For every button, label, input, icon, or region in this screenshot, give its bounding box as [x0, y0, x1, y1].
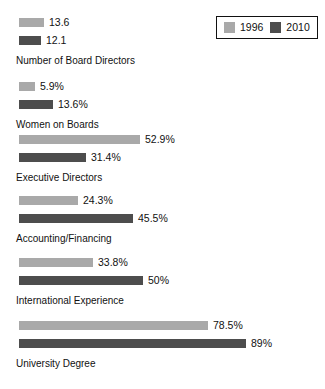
bar-group: 5.9%13.6%Women on Boards — [0, 82, 325, 131]
bar-value-label: 31.4% — [91, 151, 121, 164]
bar-row: 13.6% — [0, 100, 325, 109]
bar-value-label: 24.3% — [83, 194, 113, 207]
category-label: University Degree — [16, 357, 325, 370]
bar-1996 — [19, 82, 35, 91]
bar-row: 5.9% — [0, 82, 325, 91]
category-label: Accounting/Financing — [16, 232, 325, 245]
bar-1996 — [19, 321, 208, 330]
bar-row: 33.8% — [0, 258, 325, 267]
bar-1996 — [19, 196, 78, 205]
bar-1996 — [19, 258, 93, 267]
bar-1996 — [19, 135, 140, 144]
bar-2010 — [19, 276, 143, 285]
bar-row: 50% — [0, 276, 325, 285]
bar-value-label: 50% — [148, 274, 169, 287]
bar-value-label: 13.6 — [49, 16, 69, 29]
bar-1996 — [19, 18, 44, 27]
bar-group: 13.612.1Number of Board Directors — [0, 18, 325, 67]
bar-row: 24.3% — [0, 196, 325, 205]
bar-value-label: 12.1 — [46, 34, 66, 47]
bar-2010 — [19, 214, 133, 223]
bar-value-label: 33.8% — [98, 256, 128, 269]
bar-row: 12.1 — [0, 36, 325, 45]
bar-value-label: 52.9% — [145, 133, 175, 146]
bar-group: 52.9%31.4%Executive Directors — [0, 135, 325, 184]
bar-group: 33.8%50%International Experience — [0, 258, 325, 307]
bar-group: 78.5%89%University Degree — [0, 321, 325, 370]
bar-row: 89% — [0, 339, 325, 348]
category-label: Executive Directors — [16, 171, 325, 184]
bar-group: 24.3%45.5%Accounting/Financing — [0, 196, 325, 245]
category-label: International Experience — [16, 294, 325, 307]
bar-2010 — [19, 153, 86, 162]
bar-value-label: 89% — [251, 337, 272, 350]
grouped-bar-chart: 1996 2010 13.612.1Number of Board Direct… — [0, 0, 325, 389]
bar-2010 — [19, 36, 41, 45]
bar-value-label: 13.6% — [58, 98, 88, 111]
bar-row: 45.5% — [0, 214, 325, 223]
bar-row: 78.5% — [0, 321, 325, 330]
bar-value-label: 78.5% — [213, 319, 243, 332]
bar-row: 52.9% — [0, 135, 325, 144]
category-label: Women on Boards — [16, 118, 325, 131]
bar-row: 13.6 — [0, 18, 325, 27]
bar-row: 31.4% — [0, 153, 325, 162]
bar-2010 — [19, 339, 246, 348]
category-label: Number of Board Directors — [16, 54, 325, 67]
bar-2010 — [19, 100, 53, 109]
bar-value-label: 5.9% — [40, 80, 64, 93]
bar-value-label: 45.5% — [138, 212, 168, 225]
